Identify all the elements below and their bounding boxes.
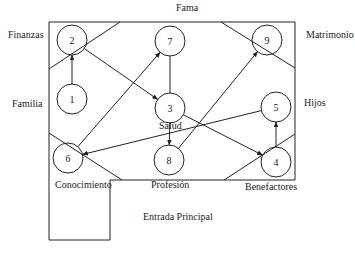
node-label: 3 bbox=[168, 103, 173, 114]
region-label-finanzas: Finanzas bbox=[8, 29, 44, 40]
region-label-profesion: Profesión bbox=[151, 179, 189, 190]
floor-plan-outline bbox=[49, 22, 295, 240]
node-3: 3 bbox=[155, 93, 185, 123]
node-7: 7 bbox=[155, 26, 185, 56]
node-label: 7 bbox=[168, 36, 173, 47]
node-label: 5 bbox=[274, 102, 279, 113]
region-label-conocimiento: Conocimiento bbox=[55, 179, 112, 190]
region-label-benefactores: Benefactores bbox=[245, 181, 297, 192]
node-2: 2 bbox=[57, 25, 87, 55]
node-label: 4 bbox=[274, 157, 279, 168]
node-label: 8 bbox=[167, 155, 172, 166]
node-label: 9 bbox=[265, 35, 270, 46]
corner-divider-bottom-left bbox=[49, 133, 122, 180]
region-label-matrimonio: Matrimonio bbox=[306, 29, 354, 40]
edge-3-to-4 bbox=[183, 115, 262, 155]
edge-5-to-6 bbox=[83, 111, 262, 155]
node-label: 1 bbox=[70, 94, 75, 105]
node-1: 1 bbox=[57, 84, 87, 114]
node-5: 5 bbox=[261, 92, 291, 122]
edge-8-to-9 bbox=[178, 52, 257, 149]
node-label: 6 bbox=[66, 153, 71, 164]
node-6: 6 bbox=[53, 143, 83, 173]
region-label-hijos: Hijos bbox=[304, 97, 326, 108]
edge-2-to-3 bbox=[84, 49, 157, 100]
region-label-salud: Salud bbox=[159, 120, 182, 131]
region-label-familia: Familia bbox=[12, 98, 43, 109]
region-label-entrada: Entrada Principal bbox=[143, 211, 213, 222]
edge-6-to-7 bbox=[78, 52, 160, 146]
node-label: 2 bbox=[70, 35, 75, 46]
node-4: 4 bbox=[261, 147, 291, 177]
corner-divider-top-right bbox=[221, 22, 295, 68]
corner-divider-top-left bbox=[49, 22, 120, 69]
node-8: 8 bbox=[154, 145, 184, 175]
region-label-fama: Fama bbox=[176, 2, 198, 13]
